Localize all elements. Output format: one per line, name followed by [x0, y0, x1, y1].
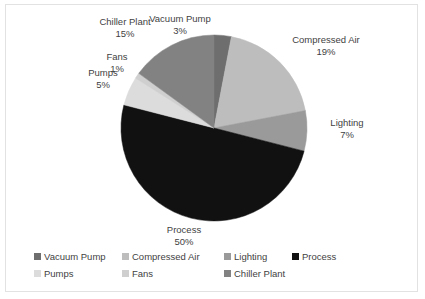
- slice-label-compressed-air-value: 19%: [271, 46, 381, 58]
- legend-item-label: Pumps: [44, 268, 74, 279]
- pie-chart-plot-area: Vacuum Pump 3% Compressed Air 19% Lighti…: [6, 5, 419, 293]
- legend-item-fans[interactable]: Fans: [122, 268, 153, 279]
- legend-swatch-icon: [292, 253, 299, 260]
- legend-swatch-icon: [224, 270, 231, 277]
- legend-swatch-icon: [122, 253, 129, 260]
- legend-row: PumpsFansChiller Plant: [34, 268, 394, 285]
- legend-item-label: Chiller Plant: [234, 268, 285, 279]
- legend-row: Vacuum PumpCompressed AirLightingProcess: [34, 251, 394, 268]
- slice-label-lighting-name: Lighting: [311, 117, 383, 129]
- slice-label-lighting: Lighting 7%: [311, 117, 383, 140]
- legend-item-chiller-plant[interactable]: Chiller Plant: [224, 268, 285, 279]
- slice-label-pumps-value: 5%: [72, 79, 134, 91]
- legend-item-pumps[interactable]: Pumps: [34, 268, 74, 279]
- slice-label-lighting-value: 7%: [311, 129, 383, 141]
- legend-swatch-icon: [34, 253, 41, 260]
- legend-swatch-icon: [34, 270, 41, 277]
- legend-item-label: Fans: [132, 268, 153, 279]
- slice-label-compressed-air-name: Compressed Air: [271, 34, 381, 46]
- legend-item-process[interactable]: Process: [292, 251, 336, 262]
- legend-item-label: Vacuum Pump: [44, 251, 106, 262]
- slice-label-process-value: 50%: [148, 236, 220, 248]
- slice-label-fans: Fans 1%: [88, 51, 146, 74]
- chart-legend: Vacuum PumpCompressed AirLightingProcess…: [34, 251, 394, 285]
- legend-item-label: Compressed Air: [132, 251, 200, 262]
- legend-item-label: Process: [302, 251, 336, 262]
- legend-swatch-icon: [224, 253, 231, 260]
- slice-label-chiller-plant-value: 15%: [79, 28, 171, 40]
- chart-frame: Vacuum Pump 3% Compressed Air 19% Lighti…: [5, 4, 418, 292]
- slice-label-fans-value: 1%: [88, 63, 146, 75]
- legend-swatch-icon: [122, 270, 129, 277]
- slice-label-process-name: Process: [148, 224, 220, 236]
- slice-label-process: Process 50%: [148, 224, 220, 247]
- slice-label-compressed-air: Compressed Air 19%: [271, 34, 381, 57]
- pie-slice-group: [121, 35, 307, 221]
- legend-item-compressed-air[interactable]: Compressed Air: [122, 251, 200, 262]
- slice-label-chiller-plant: Chiller Plant 15%: [79, 16, 171, 39]
- legend-item-label: Lighting: [234, 251, 267, 262]
- slice-label-fans-name: Fans: [88, 51, 146, 63]
- slice-label-chiller-plant-name: Chiller Plant: [79, 16, 171, 28]
- legend-item-vacuum-pump[interactable]: Vacuum Pump: [34, 251, 106, 262]
- legend-item-lighting[interactable]: Lighting: [224, 251, 267, 262]
